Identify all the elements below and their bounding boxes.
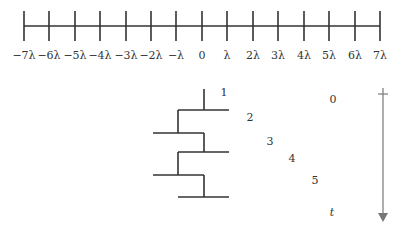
diagram-svg: −7λ−6λ−5λ−4λ−3λ−2λ−λ0λ2λ3λ4λ5λ6λ7λ 12345… [0, 0, 411, 227]
time-start-label: 0 [330, 93, 337, 106]
tick-label: −2λ [139, 49, 162, 62]
step-label: 5 [312, 174, 319, 187]
tick-label: λ [224, 49, 231, 62]
step-labels: 12345 [221, 86, 319, 187]
step-label: 2 [247, 111, 254, 124]
tick-label: 6λ [348, 49, 362, 62]
step-label: 1 [221, 86, 228, 99]
tick-label: −3λ [114, 49, 137, 62]
number-line: −7λ−6λ−5λ−4λ−3λ−2λ−λ0λ2λ3λ4λ5λ6λ7λ [12, 11, 387, 62]
tick-label: 2λ [246, 49, 260, 62]
tick-label: −λ [168, 49, 184, 62]
tick-label: 7λ [373, 49, 387, 62]
tick-label: −4λ [88, 49, 111, 62]
time-axis: 0t [330, 88, 389, 222]
step-label: 3 [267, 135, 274, 148]
arrow-down-icon [378, 213, 388, 222]
random-walk-ladder [153, 89, 229, 197]
tick-label: 0 [199, 49, 206, 62]
tick-label: −7λ [12, 49, 35, 62]
tick-label: −6λ [37, 49, 60, 62]
tick-label: −5λ [63, 49, 86, 62]
step-label: 4 [289, 152, 296, 165]
tick-label: 4λ [297, 49, 311, 62]
time-end-label: t [330, 206, 335, 219]
tick-label: 3λ [271, 49, 285, 62]
diagram-canvas: −7λ−6λ−5λ−4λ−3λ−2λ−λ0λ2λ3λ4λ5λ6λ7λ 12345… [0, 0, 411, 227]
tick-label: 5λ [322, 49, 336, 62]
